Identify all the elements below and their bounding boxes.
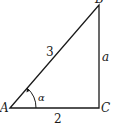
triangle-diagram: A B C 3 a 2 α bbox=[0, 0, 114, 128]
vertex-label-c: C bbox=[101, 101, 110, 115]
side-label-vertical: a bbox=[102, 50, 109, 64]
vertex-label-b: B bbox=[94, 0, 104, 6]
angle-label-alpha: α bbox=[38, 92, 45, 103]
side-label-hypotenuse: 3 bbox=[46, 45, 54, 59]
vertex-label-a: A bbox=[0, 101, 9, 115]
side-label-base: 2 bbox=[54, 112, 62, 126]
triangle-outline bbox=[10, 5, 99, 108]
